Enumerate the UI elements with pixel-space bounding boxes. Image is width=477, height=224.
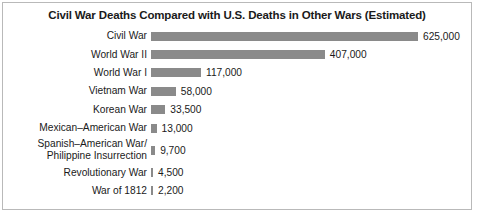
bar xyxy=(151,87,176,96)
bar-track: 33,500 xyxy=(151,104,471,115)
bar-track: 407,000 xyxy=(151,49,471,60)
bar-track: 9,700 xyxy=(151,145,471,156)
bar-category-label: Spanish–American War/ Philippine Insurre… xyxy=(3,138,151,162)
bar-value-label: 2,200 xyxy=(153,185,184,196)
bar-value-label: 407,000 xyxy=(325,49,367,60)
bar-row: War of 18122,200 xyxy=(3,182,471,200)
bar-track: 4,500 xyxy=(151,167,471,178)
bar-row: World War I117,000 xyxy=(3,64,471,82)
bar-row: Vietnam War58,000 xyxy=(3,82,471,100)
bar-value-label: 33,500 xyxy=(165,104,201,115)
bar-row: Mexican–American War13,000 xyxy=(3,119,471,137)
bar-row: Korean War33,500 xyxy=(3,101,471,119)
bar-category-label: Vietnam War xyxy=(3,85,151,97)
bar-track: 117,000 xyxy=(151,67,471,78)
bar-value-label: 625,000 xyxy=(418,31,460,42)
bar-chart-plot-area: Civil War625,000World War II407,000World… xyxy=(3,27,471,200)
bar-row: Spanish–American War/ Philippine Insurre… xyxy=(3,137,471,163)
bar-category-label: Korean War xyxy=(3,104,151,116)
bar-track: 13,000 xyxy=(151,123,471,134)
bar-value-label: 4,500 xyxy=(153,167,184,178)
bar-value-label: 58,000 xyxy=(176,86,212,97)
bar xyxy=(151,32,418,41)
bar xyxy=(151,105,165,114)
bar-track: 2,200 xyxy=(151,185,471,196)
bar-category-label: War of 1812 xyxy=(3,185,151,197)
bar-value-label: 117,000 xyxy=(201,67,242,78)
bar-row: Civil War625,000 xyxy=(3,27,471,45)
bar-value-label: 13,000 xyxy=(157,123,193,134)
bar-row: Revolutionary War4,500 xyxy=(3,163,471,181)
bar-category-label: Civil War xyxy=(3,30,151,42)
bar-row: World War II407,000 xyxy=(3,45,471,63)
bar-category-label: Mexican–American War xyxy=(3,122,151,134)
bar-value-label: 9,700 xyxy=(155,145,186,156)
bar-track: 625,000 xyxy=(151,31,471,42)
bar xyxy=(151,50,325,59)
bar xyxy=(151,68,201,77)
bar-category-label: Revolutionary War xyxy=(3,167,151,179)
bar-category-label: World War II xyxy=(3,49,151,61)
bar-category-label: World War I xyxy=(3,67,151,79)
chart-title: Civil War Deaths Compared with U.S. Deat… xyxy=(3,9,471,21)
bar-track: 58,000 xyxy=(151,86,471,97)
chart-panel: Civil War Deaths Compared with U.S. Deat… xyxy=(2,2,472,210)
